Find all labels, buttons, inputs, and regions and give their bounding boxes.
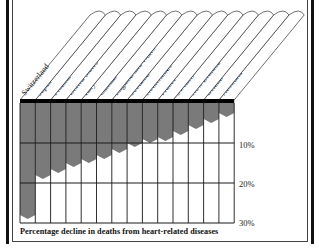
bar (204, 103, 219, 123)
bar (51, 103, 66, 173)
ytick-10: 10% (239, 140, 255, 150)
bar (81, 103, 96, 163)
bar (219, 103, 234, 117)
chart-caption: Percentage decline in deaths from heart-… (20, 227, 218, 236)
ytick-30: 30% (239, 218, 255, 228)
bar (66, 103, 81, 167)
bar (142, 103, 157, 143)
bar-chart: AustraliaIrelandNew ZealandSwedenFranceN… (0, 0, 319, 251)
bar (97, 103, 112, 159)
bar (188, 103, 203, 129)
bar (127, 103, 142, 147)
bar (173, 103, 188, 135)
bar (20, 103, 35, 219)
bar (112, 103, 127, 153)
bar (35, 103, 50, 179)
ytick-20: 20% (239, 179, 255, 189)
bar (158, 103, 173, 141)
chart-frame: AustraliaIrelandNew ZealandSwedenFranceN… (0, 0, 319, 251)
top-axis-bar (20, 99, 234, 103)
